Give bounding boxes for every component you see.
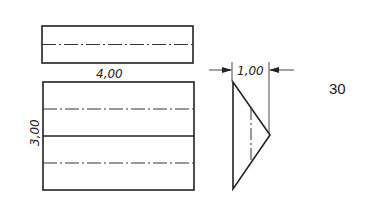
side-view: [233, 82, 270, 189]
top-view: [42, 26, 193, 63]
arrow-right-head-icon: [269, 67, 279, 73]
arrow-left-head-icon: [222, 67, 232, 73]
figure-number: 30: [329, 80, 346, 97]
width-dimension-label: 4,00: [96, 67, 123, 81]
front-view: [43, 82, 194, 190]
depth-dimension-label: 1,00: [237, 64, 264, 78]
technical-drawing: 4,00 3,00 1,00: [0, 0, 365, 201]
height-dimension-label: 3,00: [28, 119, 42, 146]
